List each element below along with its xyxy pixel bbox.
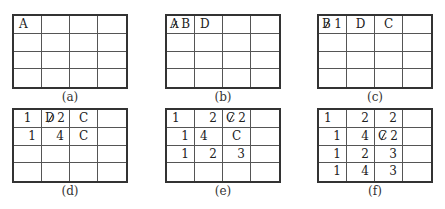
grid-cell <box>14 163 42 181</box>
grid-cell <box>42 52 70 70</box>
grid-cell: 1 <box>167 128 195 146</box>
grid-cell <box>14 69 42 87</box>
struck-value: C <box>378 128 387 145</box>
grid-cell: 1 <box>167 146 195 164</box>
grid-cell <box>98 146 126 164</box>
grid-cell <box>375 69 403 87</box>
grid-cell <box>347 69 375 87</box>
grid-cell: D <box>195 16 223 34</box>
grid-cell <box>98 163 126 181</box>
grid-cell <box>42 163 70 181</box>
struck-value: C <box>226 110 235 127</box>
caption-e: (e) <box>165 184 281 198</box>
panel-c: B1DC (c) <box>317 14 434 104</box>
grid-cell <box>403 34 431 52</box>
cell-value: D <box>347 16 374 33</box>
grid-cell <box>403 69 431 87</box>
cell-value-pair: D2 <box>45 110 65 127</box>
grid-f: 12214C2123143 <box>317 108 433 183</box>
caption-f: (f) <box>317 184 433 198</box>
cell-value: 4 <box>361 128 369 145</box>
cell-value: 2 <box>209 146 217 163</box>
grid-cell <box>42 69 70 87</box>
grid-cell <box>70 69 98 87</box>
grid-cell: C2 <box>375 128 403 146</box>
grid-cell <box>70 163 98 181</box>
grid-cell <box>42 16 70 34</box>
cell-value: 3 <box>389 146 397 163</box>
grid-cell <box>195 163 223 181</box>
grid-cell: B1 <box>319 16 347 34</box>
cell-value: C <box>375 16 402 33</box>
grid-b: ABD <box>165 14 281 89</box>
grid-cell: C <box>70 110 98 128</box>
cell-value: 4 <box>361 163 369 180</box>
grid-cell: 3 <box>223 146 251 164</box>
cell-value: C <box>70 110 97 127</box>
grid-cell <box>167 52 195 70</box>
grid-cell <box>251 110 279 128</box>
cell-value: 2 <box>390 128 398 145</box>
cell-value: 1 <box>172 110 180 127</box>
grid-cell <box>403 146 431 164</box>
grid-cell <box>195 69 223 87</box>
grid-cell: D2 <box>42 110 70 128</box>
grid-cell <box>98 34 126 52</box>
grid-cell <box>251 146 279 164</box>
grid-cell <box>98 128 126 146</box>
panel-e: 12C214C123 (e) <box>165 108 282 198</box>
grid-cell: 1 <box>14 110 42 128</box>
grid-cell <box>14 34 42 52</box>
grid-cell <box>167 163 195 181</box>
cell-value-pair: C2 <box>226 110 246 127</box>
grid-cell: 2 <box>347 110 375 128</box>
grid-cell: C <box>223 128 251 146</box>
grid-cell <box>70 34 98 52</box>
cell-value: 1 <box>334 16 342 33</box>
grid-cell <box>70 146 98 164</box>
struck-value: B <box>322 16 331 33</box>
grid-cell: 3 <box>375 163 403 181</box>
struck-value: D <box>45 110 55 127</box>
struck-value: A <box>170 16 179 33</box>
cell-value: C <box>70 128 97 145</box>
grid-cell: 1 <box>319 110 347 128</box>
grid-a: A <box>12 14 128 89</box>
caption-d: (d) <box>12 184 128 198</box>
grid-cell <box>403 52 431 70</box>
cell-value: 2 <box>238 110 246 127</box>
grid-cell <box>375 52 403 70</box>
caption-b: (b) <box>165 90 281 104</box>
grid-cell: C <box>70 128 98 146</box>
grid-cell <box>167 34 195 52</box>
grid-cell <box>251 69 279 87</box>
grid-cell <box>403 128 431 146</box>
cell-value-pair: AB <box>170 16 190 33</box>
grid-cell <box>42 34 70 52</box>
grid-cell <box>70 16 98 34</box>
grid-cell: 1 <box>14 128 42 146</box>
cell-value: A <box>19 16 28 33</box>
grid-cell <box>14 146 42 164</box>
grid-cell: 3 <box>375 146 403 164</box>
panel-b: ABD (b) <box>165 14 282 104</box>
cell-value: 2 <box>361 146 369 163</box>
cell-value-pair: B1 <box>322 16 342 33</box>
grid-cell <box>347 52 375 70</box>
grid-cell: AB <box>167 16 195 34</box>
cell-value: 1 <box>28 128 36 145</box>
grid-cell <box>403 16 431 34</box>
grid-cell <box>251 34 279 52</box>
grid-cell: D <box>347 16 375 34</box>
grid-cell <box>223 69 251 87</box>
panel-a: A (a) <box>12 14 129 104</box>
cell-value: 2 <box>209 110 217 127</box>
grid-cell <box>98 16 126 34</box>
grid-cell <box>251 163 279 181</box>
panel-f: 12214C2123143 (f) <box>317 108 434 198</box>
caption-a: (a) <box>12 90 128 104</box>
grid-cell <box>375 34 403 52</box>
grid-cell <box>195 34 223 52</box>
grid-cell <box>347 34 375 52</box>
cell-value: 2 <box>361 110 369 127</box>
